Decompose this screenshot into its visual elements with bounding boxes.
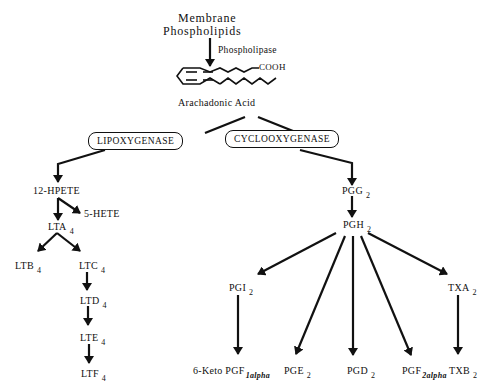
cooh-label: COOH <box>259 63 286 72</box>
phospholipids-label: Phospholipids <box>163 25 241 37</box>
lte4-label: LTE4 <box>80 333 106 347</box>
pgd2-label: PGD2 <box>347 366 375 380</box>
pgf2alpha-label: PGF2alpha <box>402 366 447 380</box>
ltf4-label: LTF4 <box>81 369 106 383</box>
pgg2-label: PGG2 <box>342 186 370 200</box>
lipoxygenase-box: LIPOXYGENASE <box>88 132 183 150</box>
hpete-label: 12-HPETE <box>33 186 80 196</box>
cyclooxygenase-box: CYCLOOXYGENASE <box>225 130 339 148</box>
ltb4-label: LTB4 <box>15 261 41 275</box>
txa2-label: TXA2 <box>448 283 477 297</box>
ltc4-label: LTC4 <box>79 261 105 275</box>
pgi2-label: PGI2 <box>229 283 253 297</box>
txb2-label: TXB2 <box>449 366 477 380</box>
ltd4-label: LTD4 <box>80 296 107 310</box>
pgh2-label: PGH2 <box>343 220 371 234</box>
membrane-label: Membrane <box>178 12 236 24</box>
lta4-label: LTA4 <box>48 222 74 236</box>
hete-label: 5-HETE <box>84 209 120 219</box>
phospholipase-label: Phospholipase <box>218 46 277 56</box>
keto-pgf1alpha-label: 6-Keto PGF1alpha <box>193 366 270 380</box>
pge2-label: PGE2 <box>284 366 311 380</box>
arachidonic-acid-label: Arachadonic Acid <box>178 98 255 108</box>
